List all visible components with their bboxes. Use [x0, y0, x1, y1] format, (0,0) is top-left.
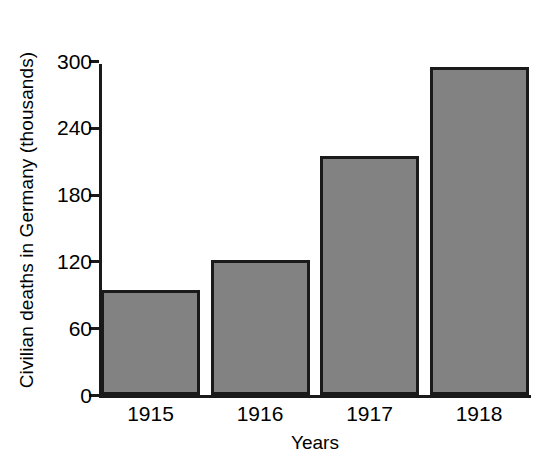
x-tick-label-1917: 1917: [320, 402, 419, 426]
bar-chart-figure: Civilian deaths in Germany (thousands) 0…: [0, 0, 550, 464]
y-tick-label: 60: [69, 317, 92, 341]
bar-1915: [101, 290, 200, 395]
y-tick-label: 300: [57, 50, 92, 74]
y-axis-title: Civilian deaths in Germany (thousands): [10, 10, 44, 430]
x-tick-label-1915: 1915: [101, 402, 200, 426]
x-axis-title: Years: [99, 432, 531, 454]
y-tick-label: 240: [57, 116, 92, 140]
y-tick-label: 180: [57, 183, 92, 207]
y-tick-label: 120: [57, 250, 92, 274]
x-tick-label-1916: 1916: [211, 402, 310, 426]
y-tick-label: 0: [80, 384, 92, 408]
plot-area: 060120180240300: [99, 40, 539, 398]
x-axis-tick-labels: 1915191619171918: [99, 402, 539, 430]
bar-series: [99, 40, 539, 398]
bar-1916: [211, 260, 310, 395]
bar-1917: [320, 156, 419, 395]
bar-1918: [430, 67, 529, 395]
x-tick-label-1918: 1918: [430, 402, 529, 426]
